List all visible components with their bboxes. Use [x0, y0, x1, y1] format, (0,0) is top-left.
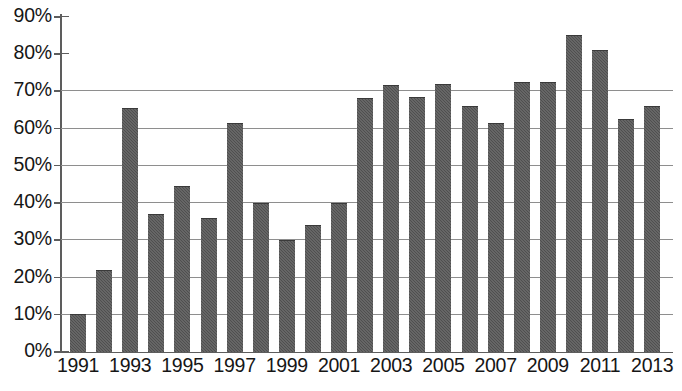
y-axis-labels: 0%10%20%30%40%50%60%70%80%90% — [0, 0, 55, 391]
bar — [540, 82, 556, 352]
bar — [279, 240, 295, 352]
bar — [592, 50, 608, 352]
y-axis-tick-label: 20% — [14, 267, 52, 287]
bar — [409, 97, 425, 352]
y-axis-tick-label: 10% — [14, 304, 52, 324]
bar — [644, 106, 660, 352]
bar — [122, 108, 138, 352]
bar — [566, 35, 582, 351]
x-axis-line — [60, 352, 673, 354]
y-axis-tick-label: 0% — [24, 341, 52, 361]
x-axis-tick-label: 2005 — [422, 356, 464, 376]
bar — [618, 119, 634, 352]
bar — [488, 123, 504, 352]
bar-series — [60, 15, 673, 352]
x-axis-tick-label: 2003 — [370, 356, 412, 376]
x-axis-tick-label: 1993 — [109, 356, 151, 376]
bar — [514, 82, 530, 352]
y-axis-tick-label: 30% — [14, 230, 52, 250]
bar — [96, 270, 112, 352]
bar — [174, 186, 190, 352]
y-axis-tick-label: 40% — [14, 192, 52, 212]
bar — [201, 218, 217, 352]
y-axis-tick-label: 80% — [14, 43, 52, 63]
bar — [435, 84, 451, 352]
bar — [357, 98, 373, 351]
x-axis-tick-label: 1997 — [214, 356, 256, 376]
bar — [148, 214, 164, 352]
bar — [305, 225, 321, 352]
bar — [227, 123, 243, 352]
bar-chart: 0%10%20%30%40%50%60%70%80%90% 1991199319… — [0, 0, 682, 391]
y-axis-tick-label: 50% — [14, 155, 52, 175]
bar — [70, 314, 86, 351]
x-axis-tick-label: 1999 — [266, 356, 308, 376]
plot-area — [60, 14, 673, 353]
y-axis-tick-label: 70% — [14, 81, 52, 101]
bar — [331, 203, 347, 352]
x-axis-tick-label: 2011 — [580, 356, 621, 376]
y-axis-tick-label: 90% — [14, 6, 52, 26]
bar — [462, 106, 478, 352]
y-axis-tick-label: 60% — [14, 118, 52, 138]
x-axis-tick-label: 2007 — [475, 356, 517, 376]
x-axis-tick-label: 1995 — [161, 356, 203, 376]
bar — [383, 85, 399, 351]
x-axis-tick-label: 2001 — [318, 356, 360, 376]
x-axis-tick-label: 1991 — [57, 356, 99, 376]
x-axis-labels: 1991199319951997199920012003200520072009… — [60, 356, 673, 390]
x-axis-tick-label: 2013 — [631, 356, 673, 376]
x-axis-tick-label: 2009 — [527, 356, 569, 376]
bar — [253, 203, 269, 352]
